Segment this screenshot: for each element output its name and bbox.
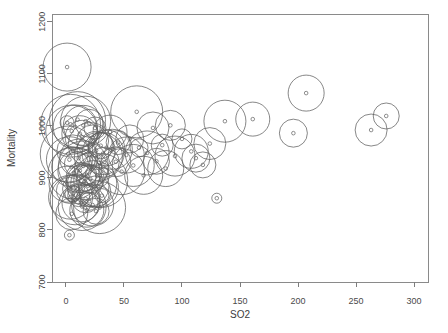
x-tick-label: 50 — [119, 296, 129, 306]
x-tick-label: 100 — [174, 296, 189, 306]
y-tick-label: 800 — [37, 222, 47, 237]
chart-figure: 700800900100011001200 050100150200250300… — [0, 0, 448, 333]
x-tick-label: 200 — [291, 296, 306, 306]
y-axis-title: Mortality — [6, 129, 17, 167]
y-tick-label: 1100 — [37, 64, 47, 83]
x-tick-label: 150 — [232, 296, 247, 306]
scatter-plot-svg: 700800900100011001200 050100150200250300… — [0, 0, 448, 333]
y-tick-label: 900 — [37, 170, 47, 185]
x-tick-label: 0 — [63, 296, 68, 306]
x-axis-title: SO2 — [230, 309, 250, 320]
y-tick-label: 1200 — [37, 12, 47, 32]
y-tick-label: 700 — [37, 274, 47, 289]
x-tick-label: 300 — [407, 296, 422, 306]
x-tick-label: 250 — [349, 296, 364, 306]
